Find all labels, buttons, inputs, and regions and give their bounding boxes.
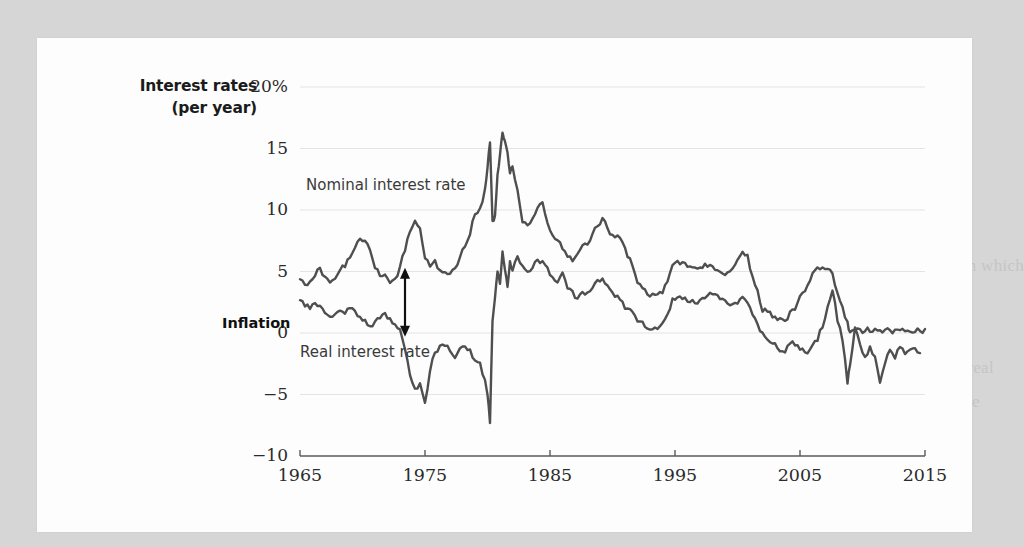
- inflation-annotation-label: Inflation: [222, 315, 290, 331]
- inflation-arrow-head-top: [400, 268, 410, 279]
- x-axis-tick-label: 1985: [510, 465, 590, 485]
- figure-card: Interest rates (per year) 20%151050−5−10…: [37, 38, 972, 532]
- interest-rates-chart: Interest rates (per year) 20%151050−5−10…: [37, 38, 972, 532]
- x-axis-tick-label: 1965: [260, 465, 340, 485]
- x-axis-tick-label: 1975: [385, 465, 465, 485]
- y-axis-tick-label: 15: [228, 138, 288, 158]
- axis-lines: [300, 450, 925, 456]
- y-axis-tick-label: 5: [228, 261, 288, 281]
- x-axis-tick-label: 2005: [760, 465, 840, 485]
- nominal-interest-rate-label: Nominal interest rate: [306, 176, 466, 194]
- x-axis-tick-label: 1995: [635, 465, 715, 485]
- y-axis-title-line-2: (per year): [67, 99, 257, 117]
- y-axis-tick-label: −10: [228, 445, 288, 465]
- inflation-arrow: [400, 268, 410, 337]
- x-axis-tick-label: 2015: [885, 465, 965, 485]
- y-axis-tick-label: 20%: [228, 76, 288, 96]
- y-axis-tick-label: −5: [228, 384, 288, 404]
- y-axis-tick-label: 10: [228, 199, 288, 219]
- series-line-real: [300, 251, 920, 423]
- real-interest-rate-label: Real interest rate: [300, 343, 430, 361]
- series-line-nominal: [300, 133, 925, 334]
